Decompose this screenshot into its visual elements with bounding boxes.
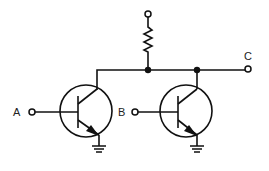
circuit-diagram: C A B [0,0,269,171]
label-a: A [13,106,21,118]
ground-icon [190,146,204,152]
pull-up-resistor [144,11,152,70]
transistor-q2 [138,70,212,152]
output-terminal-c [245,66,251,72]
collector-bus [97,70,245,90]
junction-dot [145,67,151,73]
transistor-q1 [35,85,112,152]
label-b: B [118,106,125,118]
input-terminal-b [132,109,138,115]
supply-terminal [145,11,151,17]
ground-icon [92,146,106,152]
label-c: C [244,50,252,62]
input-terminal-a [29,109,35,115]
